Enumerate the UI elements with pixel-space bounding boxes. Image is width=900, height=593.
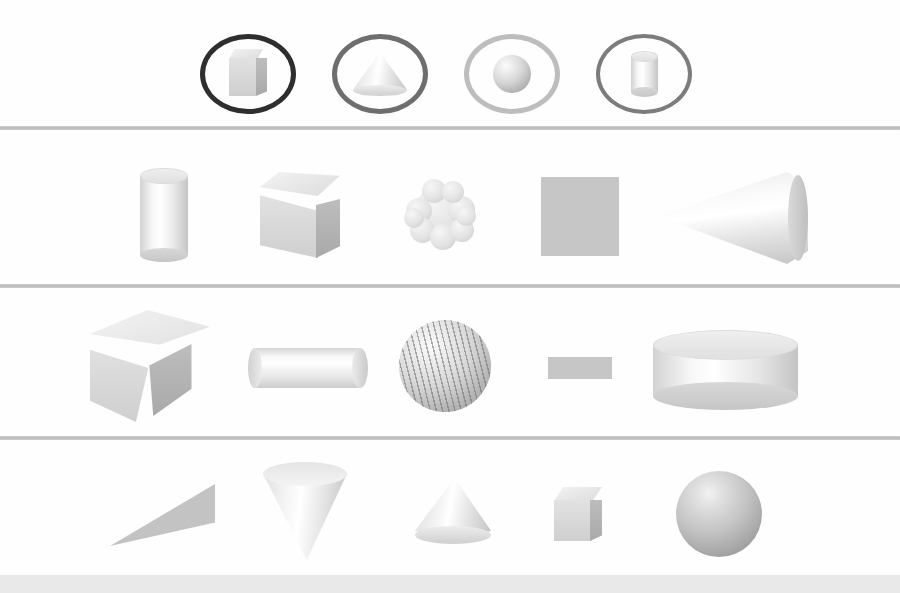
shape-striped-sphere — [399, 320, 491, 412]
shape-sideways-cone — [658, 172, 808, 264]
shape-inverted-cone — [263, 462, 347, 560]
divider-1 — [0, 126, 900, 130]
legend-item-sphere[interactable] — [460, 30, 564, 118]
shape-squat-cone — [415, 478, 491, 544]
legend-row — [196, 28, 696, 120]
shape-flat-triangle — [110, 484, 215, 546]
shape-rotated-cube — [90, 310, 210, 422]
legend-item-cone[interactable] — [328, 30, 432, 118]
shape-flat-rectangle — [548, 357, 612, 379]
shape-bumpy-sphere — [402, 178, 478, 252]
divider-2 — [0, 284, 900, 288]
shape-horizontal-cylinder — [248, 348, 368, 388]
cube-icon — [220, 46, 276, 102]
divider-3 — [0, 436, 900, 440]
cone-icon — [352, 46, 408, 102]
legend-item-cube[interactable] — [196, 30, 300, 118]
shape-shaded-sphere — [676, 471, 762, 557]
cylinder-icon — [616, 46, 672, 102]
shape-reference-figure — [0, 0, 900, 593]
footer-bar — [0, 575, 900, 593]
legend-item-cylinder[interactable] — [592, 30, 696, 118]
sphere-icon — [484, 46, 540, 102]
shape-textured-cube — [552, 487, 608, 543]
shape-cube — [258, 172, 342, 260]
shape-tall-cylinder — [138, 166, 190, 264]
shape-wide-short-cylinder — [653, 330, 798, 410]
shape-flat-square — [541, 177, 619, 256]
